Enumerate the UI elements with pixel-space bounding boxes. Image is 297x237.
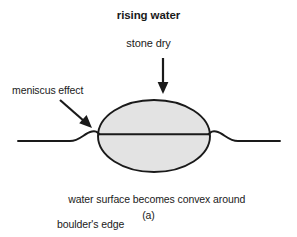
panel-label: (a) bbox=[0, 209, 297, 222]
caption-line-1: water surface becomes convex around bbox=[68, 193, 245, 205]
water-surface-left bbox=[18, 131, 100, 141]
water-surface-right bbox=[209, 131, 281, 141]
figure-rising-water-meniscus: rising water stone dry meniscus effect w… bbox=[0, 0, 297, 237]
down-arrow bbox=[158, 58, 169, 94]
meniscus-pointer-arrow bbox=[60, 100, 92, 128]
rising-water-label: rising water bbox=[0, 8, 297, 22]
stone-dry-label: stone dry bbox=[0, 37, 297, 50]
ellipse-boulder bbox=[98, 100, 210, 172]
meniscus-effect-label: meniscus effect bbox=[12, 84, 83, 97]
